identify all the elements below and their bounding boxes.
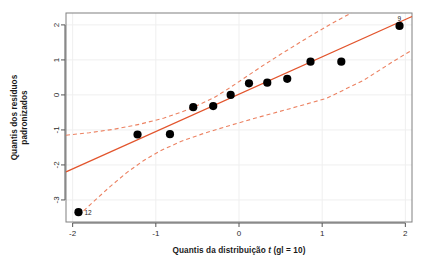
x-tick-label: 1 <box>320 229 325 238</box>
svg-text:Quantis dos resíduos: Quantis dos resíduos <box>10 74 19 160</box>
y-tick-label: 1 <box>53 57 62 62</box>
confidence-band-upper <box>66 13 351 135</box>
point-label: 9 <box>398 15 402 22</box>
plot-canvas: 129 -2-1012 210-1-2-3 Quantis da distrib… <box>0 0 429 267</box>
y-tick-label: -3 <box>53 196 62 204</box>
data-point <box>166 130 174 138</box>
data-point <box>395 22 403 30</box>
data-point <box>189 103 197 111</box>
data-point <box>245 79 253 87</box>
qq-plot-figure: 129 -2-1012 210-1-2-3 Quantis da distrib… <box>0 0 429 267</box>
y-axis: 210-1-2-3 <box>53 22 66 203</box>
x-tick-label: 0 <box>237 229 242 238</box>
y-tick-label: -1 <box>53 126 62 134</box>
grid-lines <box>66 13 412 222</box>
y-tick-label: 2 <box>53 22 62 27</box>
y-tick-label: 0 <box>53 92 62 97</box>
point-labels: 129 <box>84 15 401 216</box>
x-tick-label: -1 <box>152 229 160 238</box>
data-point <box>337 58 345 66</box>
y-axis-label: Quantis dos resíduos padronizados <box>10 74 29 160</box>
data-point <box>133 130 141 138</box>
point-label: 12 <box>84 209 92 216</box>
data-point <box>209 102 217 110</box>
data-point <box>263 79 271 87</box>
data-point <box>283 75 291 83</box>
data-point <box>306 58 314 66</box>
x-axis: -2-1012 <box>69 223 408 238</box>
svg-text:Quantis da distribuição t (gl: Quantis da distribuição t (gl = 10) <box>173 246 306 255</box>
x-tick-label: 2 <box>403 229 408 238</box>
x-axis-label: Quantis da distribuição t (gl = 10) <box>173 246 306 255</box>
data-point <box>227 91 235 99</box>
y-tick-label: -2 <box>53 161 62 169</box>
svg-text:padronizados: padronizados <box>20 90 29 145</box>
confidence-band-lower <box>78 50 412 216</box>
data-point <box>74 208 82 216</box>
x-tick-label: -2 <box>69 229 77 238</box>
